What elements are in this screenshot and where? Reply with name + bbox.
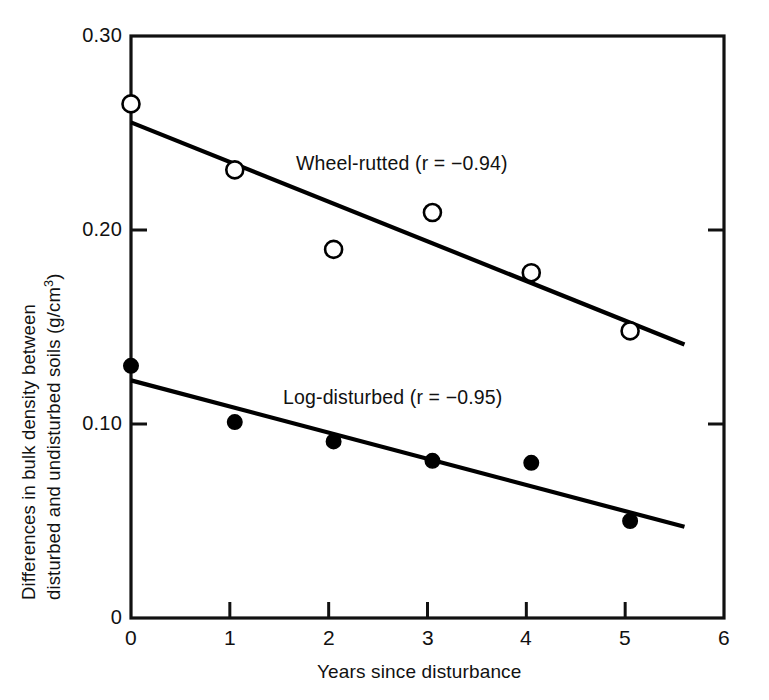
chart-canvas <box>0 0 769 700</box>
y-axis-title-line2: disturbed and undisturbed soils (g/cm3) <box>41 40 66 600</box>
xtick-label-0: 0 <box>111 626 151 650</box>
ytick-label-0: 0 <box>36 606 122 629</box>
xtick-label-1: 1 <box>210 626 250 650</box>
xtick-label-2: 2 <box>309 626 349 650</box>
data-points-wheel-rutted <box>123 95 639 339</box>
axis-ticks <box>131 230 724 618</box>
y-axis-title-line2-close: ) <box>43 274 64 280</box>
xtick-label-4: 4 <box>506 626 546 650</box>
chart-figure: 0.30 0.20 0.10 0 0 1 2 3 4 5 6 Years sin… <box>0 0 769 700</box>
xtick-label-6: 6 <box>704 626 744 650</box>
annotation-wheel-rutted: Wheel-rutted (r = −0.94) <box>296 152 508 175</box>
y-axis-title-line2-text: disturbed and undisturbed soils (g/cm <box>43 287 64 600</box>
y-axis-title: Differences in bulk density between dist… <box>16 40 66 600</box>
x-axis-title: Years since disturbance <box>317 661 521 683</box>
data-points-log-disturbed <box>124 359 638 529</box>
xtick-label-3: 3 <box>408 626 448 650</box>
y-axis-title-exponent: 3 <box>42 280 56 287</box>
annotation-log-disturbed: Log-disturbed (r = −0.95) <box>283 386 502 409</box>
regression-lines <box>131 122 684 526</box>
xtick-label-5: 5 <box>605 626 645 650</box>
y-axis-title-line1: Differences in bulk density between <box>16 40 41 600</box>
